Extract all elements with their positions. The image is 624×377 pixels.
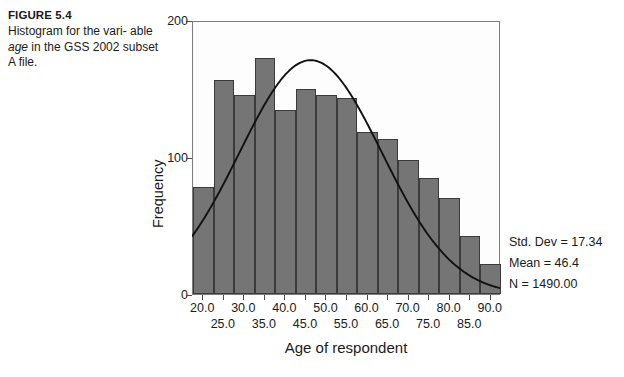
- x-tick-mark: [223, 295, 224, 300]
- histogram-bar: [214, 80, 235, 294]
- plot-frame: [192, 21, 500, 295]
- histogram-bar: [419, 178, 440, 294]
- y-tick-mark: [186, 21, 192, 22]
- x-tick-mark: [449, 295, 450, 300]
- histogram-bar: [193, 187, 214, 294]
- y-tick-mark: [186, 295, 192, 296]
- x-tick-label: 75.0: [416, 317, 440, 331]
- histogram-bar: [234, 95, 255, 294]
- x-tick-label: 45.0: [293, 317, 317, 331]
- x-tick-label: 70.0: [395, 301, 419, 315]
- statistics-annotation: Std. Dev = 17.34 Mean = 46.4 N = 1490.00: [509, 232, 602, 295]
- x-tick-label: 35.0: [252, 317, 276, 331]
- n-text: N = 1490.00: [509, 274, 602, 295]
- x-tick-label: 20.0: [190, 301, 214, 315]
- mean-text: Mean = 46.4: [509, 253, 602, 274]
- x-tick-label: 40.0: [272, 301, 296, 315]
- histogram-bar: [398, 160, 419, 294]
- histogram-bar: [480, 264, 501, 294]
- histogram-bar: [337, 98, 358, 294]
- std-dev-text: Std. Dev = 17.34: [509, 232, 602, 253]
- histogram-bar: [460, 236, 481, 294]
- x-tick-mark: [387, 295, 388, 300]
- x-tick-mark: [243, 295, 244, 300]
- histogram-chart: 0100200 Frequency Age of respondent Std.…: [0, 0, 624, 377]
- x-tick-label: 60.0: [354, 301, 378, 315]
- histogram-bar: [275, 110, 296, 294]
- x-tick-label: 30.0: [231, 301, 255, 315]
- x-tick-mark: [367, 295, 368, 300]
- x-tick-label: 55.0: [334, 317, 358, 331]
- x-tick-mark: [346, 295, 347, 300]
- x-tick-mark: [264, 295, 265, 300]
- histogram-bar: [357, 132, 378, 294]
- y-tick-label: 200: [167, 14, 188, 28]
- x-tick-mark: [325, 295, 326, 300]
- x-tick-mark: [284, 295, 285, 300]
- x-tick-mark: [490, 295, 491, 300]
- y-axis-label: Frequency: [150, 118, 166, 228]
- bar-series: [193, 22, 499, 294]
- histogram-bar: [439, 198, 460, 294]
- x-tick-label: 25.0: [211, 317, 235, 331]
- histogram-bar: [296, 89, 317, 295]
- x-tick-label: 80.0: [436, 301, 460, 315]
- histogram-bar: [255, 58, 276, 294]
- y-tick-label: 100: [167, 151, 188, 165]
- histogram-bar: [316, 95, 337, 294]
- x-tick-mark: [202, 295, 203, 300]
- x-axis-label: Age of respondent: [192, 339, 500, 356]
- x-tick-mark: [305, 295, 306, 300]
- y-tick-mark: [186, 158, 192, 159]
- x-tick-label: 90.0: [478, 301, 502, 315]
- x-tick-label: 50.0: [313, 301, 337, 315]
- x-tick-label: 65.0: [375, 317, 399, 331]
- histogram-bar: [378, 139, 399, 294]
- x-tick-mark: [408, 295, 409, 300]
- x-tick-mark: [428, 295, 429, 300]
- x-tick-mark: [469, 295, 470, 300]
- x-tick-label: 85.0: [457, 317, 481, 331]
